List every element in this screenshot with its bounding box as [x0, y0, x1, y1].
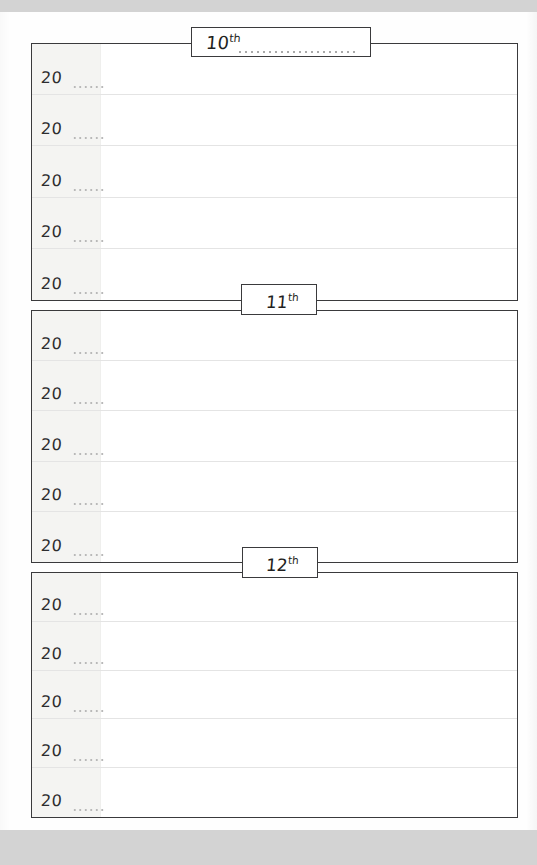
year-dotted-line — [72, 661, 106, 665]
day-tab-12th[interactable]: 12th — [242, 547, 318, 578]
entry-row[interactable]: 20 — [32, 198, 517, 249]
year-prefix: 20 — [40, 334, 63, 353]
entry-row[interactable]: 20 — [32, 622, 517, 671]
entry-row[interactable]: 20 — [32, 146, 517, 197]
day-tab-11th[interactable]: 11th — [241, 284, 317, 315]
year-dotted-line — [72, 808, 106, 812]
year-dotted-line — [72, 553, 106, 557]
year-dotted-line — [72, 351, 106, 355]
day-tab-label: 11th — [265, 291, 299, 312]
day-tab-10th[interactable]: 10th — [191, 27, 371, 57]
year-dotted-line — [72, 758, 106, 762]
entry-row[interactable]: 20 — [32, 462, 517, 512]
entry-row[interactable]: 20 — [32, 411, 517, 461]
day-tab-label: 12th — [265, 554, 299, 575]
entry-row[interactable]: 20 — [32, 768, 517, 817]
year-prefix: 20 — [40, 485, 63, 504]
year-prefix: 20 — [40, 68, 63, 87]
scan-edge-left — [0, 12, 10, 830]
entry-row[interactable]: 20 — [32, 95, 517, 146]
year-dotted-line — [72, 502, 106, 506]
year-prefix: 20 — [40, 692, 63, 711]
entry-rows: 20 20 20 20 20 — [32, 573, 517, 817]
day-section-11th: 20 20 20 20 20 — [31, 310, 518, 563]
day-tab-write-in-line[interactable] — [237, 50, 359, 54]
entry-rows: 20 20 20 20 20 — [32, 311, 517, 562]
year-dotted-line — [72, 709, 106, 713]
year-dotted-line — [72, 401, 106, 405]
year-dotted-line — [72, 452, 106, 456]
year-prefix: 20 — [40, 536, 63, 555]
year-dotted-line — [72, 136, 106, 140]
entry-row[interactable]: 20 — [32, 671, 517, 720]
scan-band-top — [0, 0, 537, 12]
year-prefix: 20 — [40, 222, 63, 241]
day-tab-label: 10th — [205, 32, 241, 53]
entry-row[interactable]: 20 — [32, 573, 517, 622]
year-prefix: 20 — [40, 741, 63, 760]
year-prefix: 20 — [40, 384, 63, 403]
scan-edge-right — [526, 12, 537, 830]
year-prefix: 20 — [40, 595, 63, 614]
year-dotted-line — [72, 291, 106, 295]
year-prefix: 20 — [40, 171, 63, 190]
year-dotted-line — [72, 85, 106, 89]
planner-page: 20 20 20 20 20 10th — [0, 0, 537, 865]
scan-band-bottom — [0, 830, 537, 865]
entry-row[interactable]: 20 — [32, 719, 517, 768]
day-section-10th: 20 20 20 20 20 — [31, 43, 518, 301]
year-prefix: 20 — [40, 274, 63, 293]
entry-row[interactable]: 20 — [32, 361, 517, 411]
year-prefix: 20 — [40, 791, 63, 810]
day-section-12th: 20 20 20 20 20 — [31, 572, 518, 818]
year-dotted-line — [72, 612, 106, 616]
year-prefix: 20 — [40, 644, 63, 663]
year-dotted-line — [72, 239, 106, 243]
entry-row[interactable]: 20 — [32, 311, 517, 361]
year-prefix: 20 — [40, 435, 63, 454]
entry-rows: 20 20 20 20 20 — [32, 44, 517, 300]
year-prefix: 20 — [40, 119, 63, 138]
year-dotted-line — [72, 188, 106, 192]
